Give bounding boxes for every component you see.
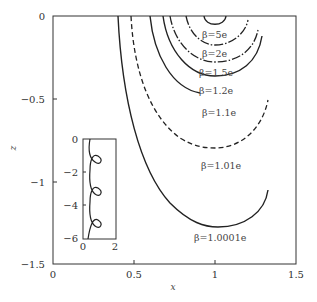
label-beta-1.0001e: β=1.0001e — [194, 232, 247, 243]
label-beta-5e: β=5e — [202, 29, 227, 40]
x-tick-1: 1 — [212, 269, 218, 280]
inset-y-tick--6: −6 — [63, 233, 78, 244]
curve-beta-1.01e — [131, 16, 268, 148]
y-axis-label: z — [8, 145, 18, 151]
curve-beta-1.0001e — [118, 16, 268, 227]
x-tick-1.5: 1.5 — [288, 269, 304, 280]
inset-y-tick-0: 0 — [72, 134, 78, 145]
inset-x-tick-0: 0 — [80, 241, 86, 252]
curves — [118, 16, 268, 227]
y-tick--1: −1 — [30, 177, 45, 188]
inset-plot: 0 −2 −4 −6 0 2 — [63, 134, 118, 252]
y-tick-0: 0 — [39, 11, 45, 22]
label-beta-1.5e: β=1.5e — [199, 67, 234, 78]
x-tick-0: 0 — [50, 269, 56, 280]
label-beta-1.1e: β=1.1e — [202, 107, 237, 118]
y-tick--0.5: −0.5 — [21, 94, 45, 105]
x-ticks — [134, 260, 215, 264]
x-tick-0.5: 0.5 — [126, 269, 142, 280]
label-beta-1.01e: β=1.01e — [201, 160, 242, 171]
y-ticks — [53, 99, 57, 182]
x-axis-label: x — [170, 282, 175, 292]
inset-y-tick--2: −2 — [63, 167, 78, 178]
label-beta-2e: β=2e — [202, 48, 227, 59]
inset-x-tick-2: 2 — [112, 241, 118, 252]
chart: 0 0.5 1 1.5 x 0 −0.5 −1 −1.5 z β=5e β=2e… — [0, 0, 317, 302]
curve-beta-5e — [204, 16, 226, 24]
label-beta-1.2e: β=1.2e — [199, 85, 234, 96]
y-tick--1.5: −1.5 — [21, 259, 45, 270]
inset-y-tick--4: −4 — [63, 200, 78, 211]
